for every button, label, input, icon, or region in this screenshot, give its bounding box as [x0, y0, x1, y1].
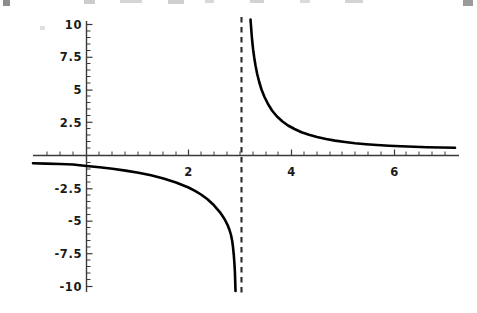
x-axis-major-ticks [189, 150, 395, 156]
y-tick-label-neg7p5: -7.5 [54, 247, 82, 261]
x-tick-label-2: 2 [184, 165, 193, 179]
y-tick-label-neg2p5: -2.5 [54, 182, 82, 196]
y-tick-label-2p5: 2.5 [60, 116, 82, 130]
x-axis-tick-labels: 2 4 6 [184, 165, 399, 179]
x-tick-label-6: 6 [390, 165, 399, 179]
y-tick-label-neg5: -5 [68, 214, 82, 228]
y-tick-label-5: 5 [73, 83, 82, 97]
axis-lines [33, 21, 459, 292]
y-tick-label-neg10: -10 [59, 280, 82, 294]
y-tick-label-7p5: 7.5 [60, 50, 82, 64]
plot-figure: 10 7.5 5 2.5 -2.5 -5 -7.5 -10 2 4 6 [0, 0, 477, 313]
y-tick-label-10: 10 [65, 18, 82, 32]
cartesian-plot: 10 7.5 5 2.5 -2.5 -5 -7.5 -10 2 4 6 [0, 0, 477, 313]
curve-right-branch [251, 20, 456, 148]
x-tick-label-4: 4 [287, 165, 296, 179]
